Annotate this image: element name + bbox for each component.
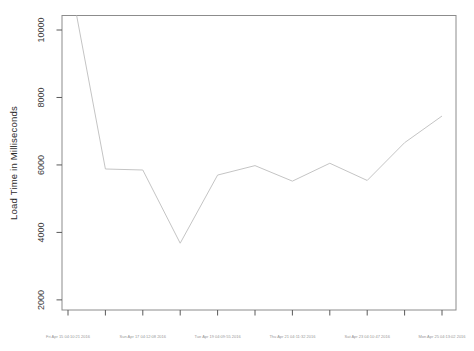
x-tick-label: Fri Apr 15 04:10:21 2016 [46, 334, 91, 339]
x-tick-label: Sat Apr 23 04:10:47 2016 [345, 334, 391, 339]
y-tick-label: 10000 [36, 17, 46, 42]
y-tick-label: 2000 [36, 290, 46, 310]
y-tick-label: 4000 [36, 222, 46, 242]
plot-box [62, 16, 456, 311]
y-tick-label: 6000 [36, 155, 46, 175]
x-tick-label: Thu Apr 21 04:11:32 2016 [269, 334, 316, 339]
x-tick-label: Mon Apr 25 04:13:02 2016 [418, 334, 466, 339]
line-chart: 200040006000800010000Fri Apr 15 04:10:21… [0, 0, 474, 351]
data-line [68, 0, 442, 243]
y-tick-label: 8000 [36, 87, 46, 107]
chart-figure: Load Time in Milliseconds 20004000600080… [0, 0, 474, 351]
x-tick-label: Tue Apr 19 04:09:55 2016 [195, 334, 242, 339]
x-tick-label: Sun Apr 17 04:12:08 2016 [120, 334, 167, 339]
